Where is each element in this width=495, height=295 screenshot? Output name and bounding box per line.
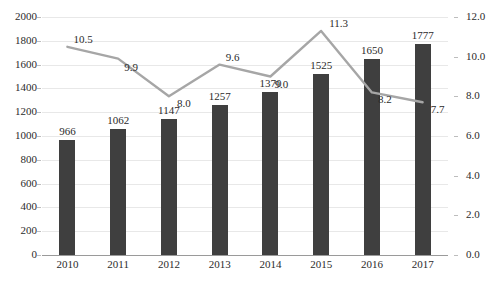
source-note xyxy=(6,285,486,295)
line-data-label: 11.3 xyxy=(329,18,348,29)
category-axis: 20102011201220132014201520162017 xyxy=(42,258,448,278)
x-axis-tick-label: 2016 xyxy=(361,258,383,270)
x-axis-tick-label: 2017 xyxy=(412,258,434,270)
line-data-label: 9.6 xyxy=(226,52,240,63)
y-axis-tick-label: 600 xyxy=(21,178,38,189)
y-axis-tick-mark xyxy=(37,160,41,161)
x-axis-tick-label: 2013 xyxy=(209,258,231,270)
y2-axis-tick-label: 12.0 xyxy=(466,11,485,22)
line-data-label: 8.0 xyxy=(177,98,191,109)
x-axis-tick-label: 2010 xyxy=(56,258,78,270)
x-axis-tick-label: 2015 xyxy=(310,258,332,270)
y-axis-tick-mark xyxy=(37,65,41,66)
y-axis-tick-mark xyxy=(37,17,41,18)
y2-axis-tick-label: 6.0 xyxy=(466,130,480,141)
secondary-y-axis: 0.02.04.06.08.010.012.0 xyxy=(454,0,495,295)
line-data-label: 8.2 xyxy=(378,94,392,105)
y-axis-tick-label: 200 xyxy=(21,225,38,236)
line-data-label: 7.7 xyxy=(431,104,445,115)
y-axis-tick-label: 2000 xyxy=(15,11,37,22)
line-path xyxy=(67,31,422,102)
y-axis-tick-mark xyxy=(37,207,41,208)
plot-area: 9661062114712571370152516501777 10.59.98… xyxy=(42,17,448,255)
y-axis-tick-mark xyxy=(37,88,41,89)
y-axis-tick-mark xyxy=(37,136,41,137)
y-axis-tick-label: 1200 xyxy=(15,106,37,117)
x-axis-tick-label: 2012 xyxy=(158,258,180,270)
x-axis-tick-label: 2014 xyxy=(259,258,281,270)
x-axis-tick-label: 2011 xyxy=(107,258,129,270)
y2-axis-tick-label: 2.0 xyxy=(466,209,480,220)
y-axis-tick-label: 800 xyxy=(21,154,38,165)
y2-axis-tick-label: 8.0 xyxy=(466,90,480,101)
y2-axis-tick-mark xyxy=(454,176,458,177)
y-axis-tick-label: 400 xyxy=(21,201,38,212)
y2-axis-tick-mark xyxy=(454,17,458,18)
y2-axis-tick-mark xyxy=(454,96,458,97)
primary-y-axis: 0200400600800100012001400160018002000 xyxy=(0,0,37,295)
y-axis-tick-label: 1600 xyxy=(15,59,37,70)
axis-baseline xyxy=(42,255,448,256)
line-data-label: 9.9 xyxy=(124,62,138,73)
y2-axis-tick-label: 4.0 xyxy=(466,170,480,181)
y2-axis-tick-mark xyxy=(454,57,458,58)
y2-axis-tick-mark xyxy=(454,255,458,256)
y2-axis-tick-mark xyxy=(454,215,458,216)
line-series xyxy=(42,17,448,255)
line-data-label: 10.5 xyxy=(73,34,92,45)
y-axis-tick-mark xyxy=(37,184,41,185)
y-axis-tick-mark xyxy=(37,231,41,232)
line-data-label: 9.0 xyxy=(274,79,288,90)
y2-axis-tick-label: 10.0 xyxy=(466,51,485,62)
y-axis-tick-mark xyxy=(37,112,41,113)
chart-container: 0200400600800100012001400160018002000 0.… xyxy=(0,0,495,295)
y-axis-tick-label: 1400 xyxy=(15,82,37,93)
y-axis-tick-mark xyxy=(37,255,41,256)
y2-axis-tick-mark xyxy=(454,136,458,137)
y2-axis-tick-label: 0.0 xyxy=(466,249,480,260)
y-axis-tick-label: 1800 xyxy=(15,35,37,46)
y-axis-tick-label: 1000 xyxy=(15,130,37,141)
y-axis-tick-mark xyxy=(37,41,41,42)
